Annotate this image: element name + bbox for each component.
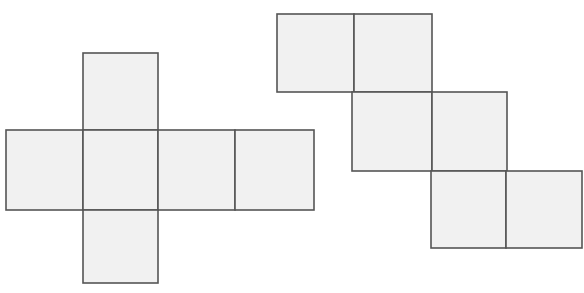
cube-nets-diagram: Two cube nets	[0, 0, 584, 293]
cross-net-center-face	[83, 130, 158, 210]
staircase-net-lower-right-face	[506, 171, 582, 248]
figure-canvas: Two cube nets	[0, 0, 584, 293]
staircase-net-upper-left-face	[277, 14, 354, 92]
cross-net-middle-left-face	[6, 130, 83, 210]
cross-net-bottom-face	[83, 210, 158, 283]
staircase-net-lower-left-face	[431, 171, 506, 248]
cross-net-far-right-face	[235, 130, 314, 210]
staircase-net-upper-right-face	[354, 14, 432, 92]
staircase-net-middle-right-face	[432, 92, 507, 171]
cross-net-middle-right-face	[158, 130, 235, 210]
cross-net-top-face	[83, 53, 158, 130]
staircase-net-middle-left-face	[352, 92, 432, 171]
